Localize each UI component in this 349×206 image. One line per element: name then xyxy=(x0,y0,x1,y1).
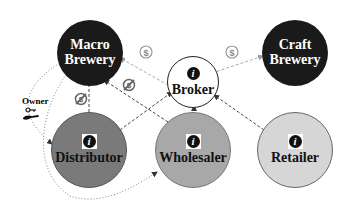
node-retailer: i Retailer xyxy=(257,112,333,188)
node-distributor: i Distributor xyxy=(51,112,127,188)
no-dollar-icon: $ xyxy=(122,78,136,92)
svg-text:$: $ xyxy=(143,48,148,58)
no-dollar-icon: $ xyxy=(74,92,88,106)
edge-wholesaler-macro xyxy=(104,80,168,122)
node-label: Wholesaler xyxy=(159,151,227,166)
key-hand-icon xyxy=(22,107,42,121)
owner-label: Owner xyxy=(22,96,49,106)
node-label: Distributor xyxy=(55,151,123,166)
dollar-icon: $ xyxy=(225,45,239,59)
info-icon: i xyxy=(82,134,97,149)
node-label: Craft xyxy=(279,38,312,53)
info-icon: i xyxy=(288,134,303,149)
svg-text:$: $ xyxy=(229,48,234,58)
node-label: Broker xyxy=(172,83,215,98)
node-macro-brewery: Macro Brewery xyxy=(57,20,123,86)
node-craft-brewery: Craft Brewery xyxy=(262,20,328,86)
node-label: Macro xyxy=(70,38,109,53)
info-icon: i xyxy=(186,134,201,149)
node-broker: i Broker xyxy=(167,56,219,108)
dollar-icon: $ xyxy=(139,45,153,59)
node-label: Brewery xyxy=(269,53,320,68)
info-icon: i xyxy=(186,66,201,81)
node-wholesaler: i Wholesaler xyxy=(155,112,231,188)
node-label: Brewery xyxy=(64,53,115,68)
node-label: Retailer xyxy=(271,151,319,166)
